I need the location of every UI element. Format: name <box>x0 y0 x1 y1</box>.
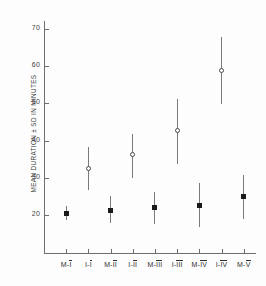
x-axis-tick <box>66 249 67 254</box>
y-axis-tick-label: 40 <box>22 136 40 145</box>
x-axis-line <box>44 253 256 254</box>
x-axis-tick <box>111 249 112 254</box>
data-point-marker <box>130 152 135 157</box>
x-axis-tick <box>177 249 178 254</box>
x-axis-tick-label: M-V <box>227 260 261 268</box>
x-label-numeral: V <box>246 260 251 268</box>
y-axis-tick-value: 60 <box>22 61 40 68</box>
data-point-marker <box>197 203 202 208</box>
x-axis-tick <box>244 249 245 254</box>
y-axis-tick-label: 30 <box>22 173 40 182</box>
y-axis-tick-value: 50 <box>22 98 40 105</box>
x-label-prefix: M- <box>104 261 113 268</box>
y-axis-tick <box>44 66 49 67</box>
data-point-marker <box>241 194 246 199</box>
data-point-marker <box>175 128 180 133</box>
data-point-marker <box>86 166 91 171</box>
x-axis-tick <box>199 249 200 254</box>
y-axis-tick-label: 60 <box>22 61 40 70</box>
y-axis-tick-label: 70 <box>22 24 40 33</box>
y-axis-tick-value: 20 <box>22 210 40 217</box>
x-label-prefix: M- <box>237 261 246 268</box>
x-label-prefix: M- <box>147 261 156 268</box>
data-point-marker <box>219 68 224 73</box>
y-axis-tick-label: 20 <box>22 210 40 219</box>
x-label-numeral: II <box>133 260 137 268</box>
y-axis-tick-value: 30 <box>22 173 40 180</box>
y-axis-tick <box>44 141 49 142</box>
y-axis-tick-value: 40 <box>22 136 40 143</box>
data-point-marker <box>108 208 113 213</box>
data-point-marker <box>64 211 69 216</box>
chart-figure: MEAN DURATION ± SD IN MINUTES 2030405060… <box>0 0 266 286</box>
x-label-numeral: I <box>90 260 92 268</box>
y-axis-tick-value: 70 <box>22 24 40 31</box>
y-axis-tick-label: 50 <box>22 98 40 107</box>
x-axis-tick <box>222 249 223 254</box>
x-label-prefix: M- <box>192 261 201 268</box>
data-point-marker <box>152 205 157 210</box>
y-axis-line <box>44 21 45 254</box>
x-label-prefix: M- <box>61 261 70 268</box>
y-axis-tick <box>44 29 49 30</box>
x-axis-tick <box>88 249 89 254</box>
x-axis-tick <box>133 249 134 254</box>
y-axis-tick <box>44 103 49 104</box>
y-axis-tick <box>44 178 49 179</box>
y-axis-tick <box>44 215 49 216</box>
x-axis-tick <box>155 249 156 254</box>
